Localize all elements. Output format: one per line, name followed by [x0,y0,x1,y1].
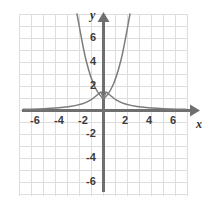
x-tick-label-2: 2 [122,115,128,126]
y-axis-arrow [98,12,110,22]
x-tick-label--6: -6 [30,115,40,126]
curve-2-to-the-x [23,14,130,109]
y-tick-label--6: -6 [86,176,96,187]
x-tick-label--2: -2 [78,115,88,126]
x-tick-label-6: 6 [170,115,176,126]
exponential-functions-graph: -6 -4 -2 2 4 6 6 4 2 -2 -4 -6 y x [0,0,211,211]
y-tick-label--2: -2 [86,128,96,139]
y-tick-label-2: 2 [90,80,96,91]
y-axis-label: y [90,9,95,21]
coordinate-plane-svg [0,0,211,211]
y-tick-label--4: -4 [86,152,96,163]
y-tick-label-6: 6 [90,32,96,43]
x-axis-arrow [190,105,200,117]
x-tick-label-4: 4 [146,115,152,126]
x-axis-label: x [196,118,202,130]
y-tick-label-4: 4 [90,56,96,67]
x-tick-label--4: -4 [54,115,64,126]
